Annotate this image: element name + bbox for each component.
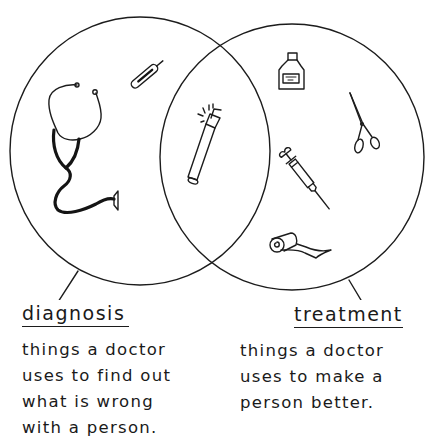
penlight-icon [187,104,221,185]
venn-diagram [0,0,430,300]
treatment-description-line: uses to make a [240,364,403,390]
treatment-label: treatment things a doctor uses to make a… [240,303,403,416]
bandage-roll-icon [270,233,331,258]
treatment-description-line: things a doctor [240,338,403,364]
diagnosis-title: diagnosis [22,302,129,327]
diagnosis-description-line: with a person. [22,415,171,441]
diagnosis-description: things a doctor uses to find out what is… [22,337,171,441]
treatment-title: treatment [294,303,403,328]
diagnosis-description-line: what is wrong [22,389,171,415]
medicine-bottle-icon [279,53,304,89]
diagnosis-description-line: things a doctor [22,337,171,363]
diagnosis-label: diagnosis things a doctor uses to find o… [22,302,171,441]
diagnosis-leader-line [58,271,78,300]
diagnosis-circle [10,17,270,285]
stethoscope-icon [49,83,118,212]
diagnosis-description-line: uses to find out [22,363,171,389]
syringe-icon [278,146,334,212]
treatment-leader-line [349,280,361,300]
treatment-description: things a doctor uses to make a person be… [240,338,403,416]
treatment-description-line: person better. [240,390,403,416]
thermometer-icon [130,58,166,90]
scissors-icon [350,93,381,154]
